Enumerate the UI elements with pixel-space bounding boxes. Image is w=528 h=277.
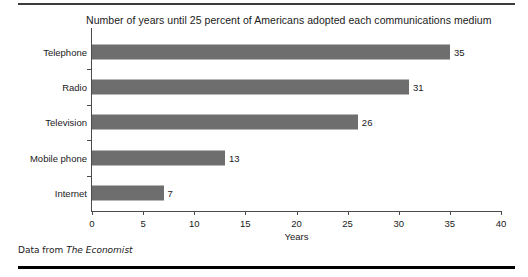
x-axis-tick-label: 20 bbox=[291, 218, 302, 229]
bar-value-label: 26 bbox=[362, 117, 373, 128]
bar-mobile-phone bbox=[92, 150, 225, 165]
x-axis-tick bbox=[501, 211, 502, 215]
x-axis-title: Years bbox=[285, 231, 309, 242]
x-axis-tick bbox=[194, 211, 195, 215]
bar-chart-figure: Number of years until 25 percent of Amer… bbox=[0, 8, 528, 256]
x-axis-tick-label: 5 bbox=[140, 218, 145, 229]
x-axis-tick bbox=[245, 211, 246, 215]
source-prefix: Data from bbox=[18, 245, 66, 255]
bar-row: Radio31 bbox=[92, 69, 501, 104]
x-axis-tick bbox=[92, 211, 93, 215]
y-axis-tick bbox=[87, 105, 92, 106]
x-axis-tick-label: 35 bbox=[445, 218, 456, 229]
x-axis-tick-label: 25 bbox=[342, 218, 353, 229]
x-axis-tick bbox=[348, 211, 349, 215]
x-axis-tick bbox=[297, 211, 298, 215]
source-publication: The Economist bbox=[66, 245, 132, 255]
y-axis-tick bbox=[87, 176, 92, 177]
top-divider-rule bbox=[18, 3, 515, 5]
x-axis-tick bbox=[450, 211, 451, 215]
bottom-divider-rule bbox=[18, 266, 515, 269]
plot-area: Telephone35Radio31Television26Mobile pho… bbox=[92, 34, 501, 211]
x-axis-tick-label: 30 bbox=[393, 218, 404, 229]
bar-row: Telephone35 bbox=[92, 34, 501, 69]
x-axis-tick-label: 15 bbox=[240, 218, 251, 229]
category-label-television: Television bbox=[45, 117, 87, 128]
x-axis-tick-label: 40 bbox=[496, 218, 507, 229]
category-label-radio: Radio bbox=[62, 82, 87, 93]
x-axis-tick bbox=[399, 211, 400, 215]
y-axis-tick bbox=[87, 140, 92, 141]
y-axis-tick bbox=[87, 69, 92, 70]
category-label-internet: Internet bbox=[55, 188, 87, 199]
category-label-telephone: Telephone bbox=[43, 46, 87, 57]
bar-television bbox=[92, 115, 358, 130]
bar-radio bbox=[92, 80, 409, 95]
bar-value-label: 31 bbox=[413, 82, 424, 93]
source-note: Data from The Economist bbox=[18, 245, 133, 255]
bar-value-label: 13 bbox=[229, 152, 240, 163]
bar-row: Television26 bbox=[92, 105, 501, 140]
bar-telephone bbox=[92, 44, 450, 59]
bar-row: Internet7 bbox=[92, 176, 501, 211]
chart-title: Number of years until 25 percent of Amer… bbox=[86, 14, 506, 27]
x-axis-tick bbox=[143, 211, 144, 215]
bar-internet bbox=[92, 186, 164, 201]
bar-row: Mobile phone13 bbox=[92, 140, 501, 175]
x-axis-tick-label: 10 bbox=[189, 218, 200, 229]
x-axis-tick-label: 0 bbox=[89, 218, 94, 229]
bar-value-label: 7 bbox=[168, 188, 173, 199]
category-label-mobile-phone: Mobile phone bbox=[30, 152, 87, 163]
bar-value-label: 35 bbox=[454, 46, 465, 57]
